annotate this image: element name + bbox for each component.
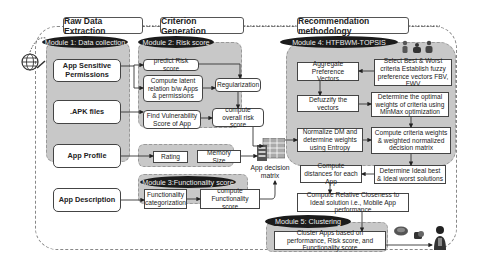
decision-matrix-label: App decision matrix (248, 164, 292, 180)
rating-box: Rating (153, 151, 188, 163)
overall-risk-score-box: compute overall risk score (212, 108, 264, 127)
apk-files-box: .APK files (53, 100, 121, 124)
app-description-box: App Description (53, 188, 121, 212)
regularization-box: Regularization (215, 78, 261, 92)
module2-label: Module 2: Risk score (138, 36, 214, 48)
people-icon (401, 40, 435, 54)
relative-closeness-box: Compute Relative Closeness to Ideal solu… (297, 193, 409, 212)
module1-label: Module 1: Data collection (42, 36, 128, 48)
header-criterion-generation: Criterion Generation (160, 17, 244, 34)
user-icon (433, 225, 447, 251)
cluster-apps-box: Cluster Apps based on performance, Risk … (274, 231, 386, 250)
header-recommendation-methodology: Recommendation methodology (297, 17, 409, 34)
latent-relation-box: Compute latent relation b/w Apps & permi… (143, 75, 203, 102)
ideal-solutions-box: Determine Ideal best & Ideal worst solut… (374, 165, 446, 184)
app-sensitive-permissions-box: App Sensitive Permissions (53, 59, 121, 82)
header-raw-data-extraction: Raw Data Extraction (63, 17, 143, 34)
weighted-matrix-box: Compute criteria weights & weighted norm… (371, 127, 451, 154)
optimal-weights-box: Determine the optimal weights of criteri… (371, 92, 449, 117)
compute-functionality-score-box: compute Functionality score (200, 189, 260, 209)
normalize-dm-box: Normalize DM and determine weights using… (297, 128, 363, 152)
app-profile-box: App Profile (53, 144, 121, 168)
globe-icon (21, 52, 47, 72)
decision-matrix-icon (257, 138, 285, 162)
memory-size-box: Memory Size (197, 150, 241, 163)
module4-label: Module 4: HTFBWM-TOPSIS (280, 36, 398, 48)
aggregate-preference-box: Aggregate Preference Vectors (297, 62, 359, 81)
module5-label: Module 5: Clustering (265, 215, 351, 228)
select-criteria-box: Select Best & Worst criteria Establish f… (374, 59, 452, 86)
vulnerability-score-box: Find Vulnerability Score of App (143, 110, 201, 129)
defuzzify-box: Defuzzify the vectors (297, 95, 359, 112)
compute-distances-box: Compute distances for each App (300, 165, 362, 183)
cloud-devices-icon (393, 225, 429, 243)
functionality-categorization-box: Functionality categorization (144, 189, 187, 209)
predict-risk-score-box: predict Risk score (143, 59, 199, 71)
